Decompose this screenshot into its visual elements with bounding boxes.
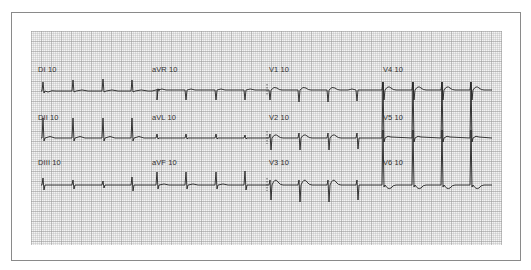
- trace-lead-ii: [41, 118, 152, 141]
- trace-lead-v2: [267, 133, 380, 150]
- ecg-traces: [0, 0, 531, 270]
- trace-lead-v1: [267, 87, 380, 102]
- trace-lead-iii: [41, 177, 152, 191]
- trace-lead-v3: [267, 180, 380, 202]
- trace-lead-v6: [380, 130, 492, 189]
- trace-lead-avl: [152, 134, 267, 139]
- trace-lead-i: [41, 79, 152, 93]
- trace-lead-v4: [380, 82, 492, 100]
- trace-lead-avf: [152, 171, 267, 190]
- trace-lead-v5: [380, 82, 492, 142]
- trace-lead-avr: [152, 89, 267, 100]
